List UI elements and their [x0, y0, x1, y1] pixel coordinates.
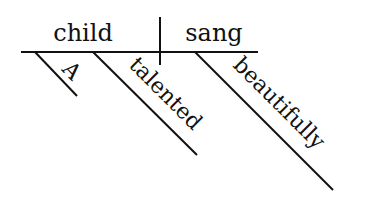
- subject-word: child: [53, 19, 113, 47]
- sentence-diagram: child sang A talented beautifully: [0, 0, 368, 201]
- modifier-word-talented: talented: [124, 52, 207, 135]
- modifier-word-a: A: [57, 55, 87, 85]
- modifier-word-beautifully: beautifully: [228, 52, 330, 154]
- predicate-word: sang: [185, 19, 242, 47]
